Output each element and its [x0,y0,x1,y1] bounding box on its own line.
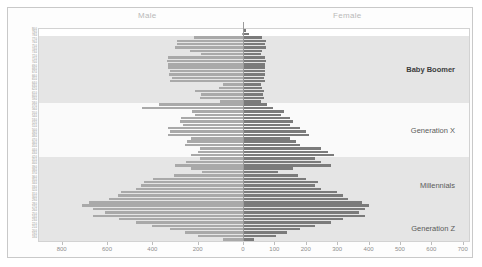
female-bar [243,154,334,156]
pyramid-row [39,171,469,173]
female-bar [243,208,365,210]
male-bar [220,100,243,102]
pyramid-row [39,174,469,176]
female-bar [243,53,261,55]
pyramid-row [39,221,469,223]
male-bar [185,144,243,146]
female-bar [243,80,265,82]
male-bar [195,114,243,116]
pyramid-row [39,50,469,52]
x-axis-tick-label: 500 [395,246,405,252]
pyramid-row [39,231,469,233]
male-bar [175,164,243,166]
x-axis-tick [152,242,153,245]
female-bar [243,204,369,206]
female-bar [243,221,331,223]
female-bar [243,147,321,149]
male-bar [159,103,243,105]
pyramid-row [39,90,469,92]
female-bar [243,60,266,62]
male-bar [190,50,243,52]
female-header-label: Female [333,11,361,20]
female-bar [243,198,348,200]
female-bar [243,93,263,95]
male-bar [191,154,243,156]
male-bar [93,215,243,217]
male-bar [175,46,243,48]
female-bar [243,228,300,230]
female-bar [243,36,262,38]
male-bar [191,137,243,139]
pyramid-row [39,114,469,116]
pyramid-row [39,103,469,105]
male-bar [142,107,243,109]
x-axis-tick [369,242,370,245]
male-bar [194,36,243,38]
female-bar [243,50,262,52]
male-bar [121,191,243,193]
male-bar [185,231,243,233]
x-axis-tick-label: 800 [57,246,67,252]
female-bar [243,238,254,240]
x-axis-tick-label: 0 [241,246,244,252]
x-axis-tick-label: 200 [301,246,311,252]
x-axis-tick [337,242,338,245]
female-bar [243,215,365,217]
zero-axis-line [243,29,244,241]
pyramid-row [39,225,469,227]
female-bar [243,117,290,119]
x-axis-tick [274,242,275,245]
chart-header: Male Female [8,8,472,28]
pyramid-row [39,80,469,82]
male-bar [183,124,243,126]
female-bar [243,184,315,186]
pyramid-row [39,100,469,102]
pyramid-row [39,204,469,206]
pyramid-row [39,77,469,79]
male-bar [82,204,243,206]
female-bar [243,161,321,163]
male-bar [168,63,243,65]
female-bar [243,127,300,129]
male-bar [187,140,243,142]
male-bar [168,134,243,136]
female-bar [243,110,284,112]
pyramid-row [39,107,469,109]
population-pyramid-chart: Male Female 80.079.078.077.076.075.074.0… [0,0,482,267]
female-bar [243,231,287,233]
pyramid-row [39,97,469,99]
x-axis-tick [107,242,108,245]
male-bar [177,43,243,45]
pyramid-row [39,137,469,139]
male-bar [219,87,243,89]
pyramid-row [39,151,469,153]
pyramid-row [39,198,469,200]
male-bar [136,188,243,190]
pyramid-row [39,130,469,132]
female-bar [243,167,293,169]
male-bar [141,184,243,186]
x-axis-tick-label: 600 [102,246,112,252]
pyramid-row [39,215,469,217]
female-bar [243,235,276,237]
pyramid-row [39,29,469,31]
male-bar [167,60,243,62]
pyramid-row [39,140,469,142]
male-bar [202,171,243,173]
x-axis-tick [243,242,244,245]
pyramid-row [39,117,469,119]
pyramid-row [39,201,469,203]
female-bar [243,181,318,183]
female-bar [243,140,296,142]
male-bar [181,117,243,119]
female-bar [243,40,266,42]
pyramid-row [39,235,469,237]
male-bar [223,238,243,240]
female-bar [243,100,261,102]
pyramid-row [39,127,469,129]
male-bar [119,218,243,220]
pyramid-row [39,60,469,62]
x-axis-tick-label: 200 [193,246,203,252]
female-bar [243,56,265,58]
x-axis-tick [431,242,432,245]
